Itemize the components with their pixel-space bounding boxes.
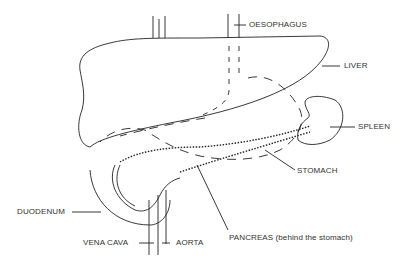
label-stomach: STOMACH (297, 166, 338, 175)
label-oesophagus: OESOPHAGUS (249, 20, 307, 29)
label-spleen: SPLEEN (358, 122, 390, 131)
label-aorta: AORTA (176, 238, 203, 247)
label-pancreas: PANCREAS (behind the stomach) (229, 233, 353, 242)
label-liver: LIVER (344, 61, 368, 70)
spleen-outline (298, 96, 343, 144)
stomach-outline (100, 77, 302, 160)
label-vena-cava: VENA CAVA (83, 238, 128, 247)
anatomy-diagram: OESOPHAGUS LIVER SPLEEN STOMACH DUODENUM… (0, 0, 407, 271)
label-duodenum: DUODENUM (17, 207, 65, 216)
vessels-top (153, 14, 246, 38)
liver-outline (79, 36, 329, 147)
organ-drawing (0, 0, 407, 271)
